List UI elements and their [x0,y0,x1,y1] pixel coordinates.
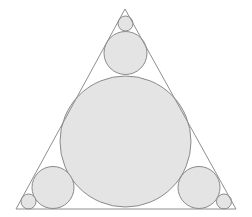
large-center-circle [60,76,191,207]
circles-layer [21,16,232,209]
circles-in-triangle-diagram [0,0,252,217]
right-medium-circle [178,167,220,209]
left-medium-circle [32,167,74,209]
diagram-canvas [0,0,252,217]
